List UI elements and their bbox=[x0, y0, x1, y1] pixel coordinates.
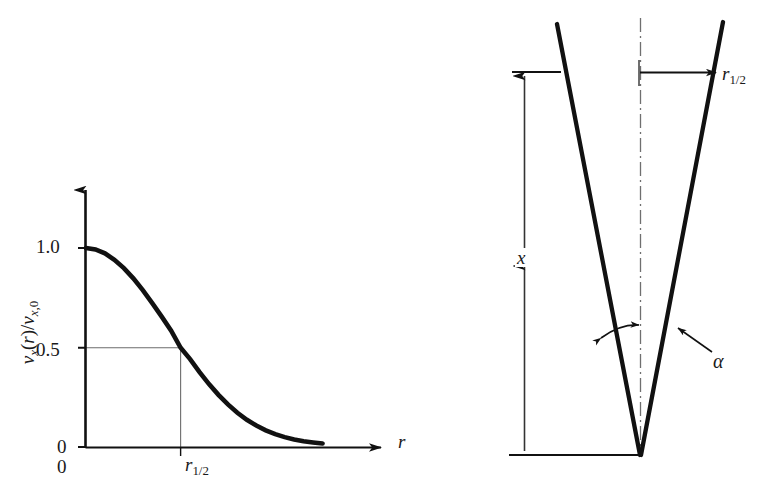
y-tick-label-0: 0 bbox=[57, 437, 67, 456]
right-diagram-group bbox=[509, 18, 723, 456]
y-tick-label-1-0: 1.0 bbox=[36, 237, 60, 256]
angle-arc-arrow bbox=[601, 325, 639, 338]
figure-canvas bbox=[0, 0, 766, 501]
left-plot-group bbox=[78, 190, 381, 456]
x-axis-label: r bbox=[398, 432, 405, 451]
half-radius-label: r1/2 bbox=[722, 64, 746, 87]
alpha-leader-line bbox=[678, 328, 712, 352]
x-tick-label-r-half: r1/2 bbox=[185, 455, 209, 478]
spread-angle-label: α bbox=[713, 351, 724, 371]
x-tick-label-origin: 0 bbox=[57, 457, 67, 476]
velocity-profile-curve-main bbox=[86, 248, 323, 444]
jet-boundary-right bbox=[641, 22, 723, 455]
jet-boundary-left bbox=[557, 24, 640, 455]
axial-distance-label: x bbox=[515, 248, 527, 267]
x-tick-label-r-half-sub: 1/2 bbox=[192, 463, 209, 478]
y-axis-label: vx(r)/vx,0 bbox=[18, 248, 42, 418]
half-radius-label-sub: 1/2 bbox=[729, 72, 746, 87]
y-tick-label-0-5: 0.5 bbox=[36, 340, 60, 359]
